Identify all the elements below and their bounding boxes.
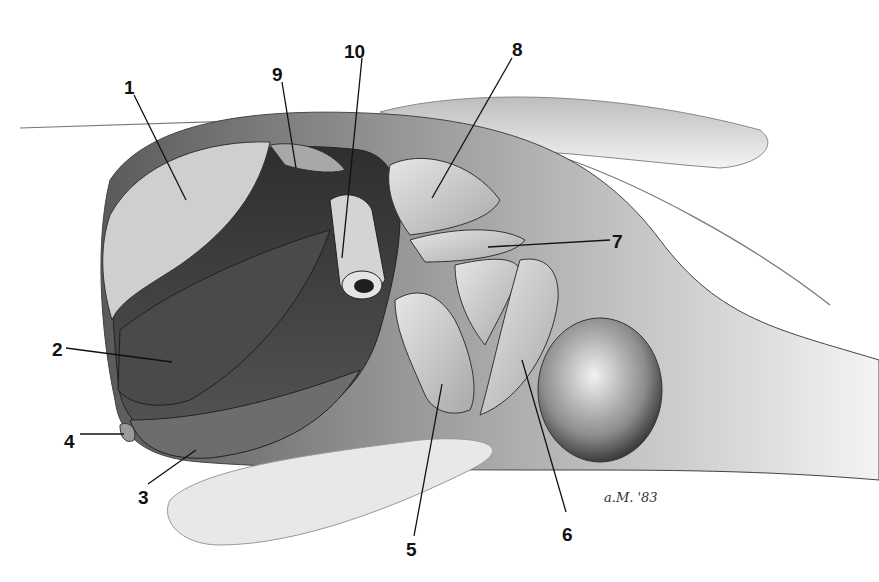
callout-label-7: 7 [612,232,623,251]
callout-label-10: 10 [344,42,365,61]
callout-label-5: 5 [406,540,417,559]
callout-label-3: 3 [138,488,149,507]
artist-signature: a.M. '83 [604,490,658,505]
callout-label-1: 1 [124,78,135,97]
callout-label-6: 6 [562,525,573,544]
callout-label-9: 9 [272,65,283,84]
structure-10-lumen [354,279,374,293]
callout-label-8: 8 [512,40,523,59]
callout-label-4: 4 [64,432,75,451]
callout-label-2: 2 [52,340,63,359]
rounded-mass [538,318,662,462]
